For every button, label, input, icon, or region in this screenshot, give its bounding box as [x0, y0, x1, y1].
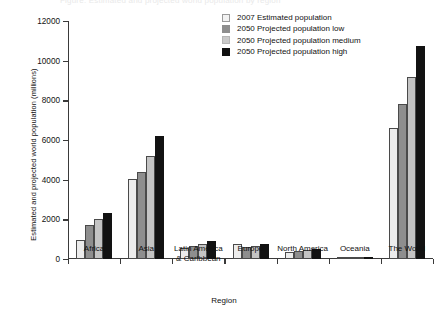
legend-item: 2050 Projected population medium	[222, 36, 361, 45]
bar	[337, 257, 346, 259]
legend-swatch-icon	[222, 48, 230, 56]
y-tick-label: 10000	[37, 56, 60, 65]
y-tick-mark	[63, 100, 68, 101]
y-axis-line	[68, 21, 69, 259]
chart-legend: 2007 Estimated population2050 Projected …	[222, 13, 361, 56]
x-tick-mark	[381, 259, 382, 264]
bar	[346, 257, 355, 259]
bar	[398, 104, 407, 259]
clipped-header-strip: Figure: Estimated and projected world po…	[0, 0, 448, 9]
y-tick-mark	[63, 140, 68, 141]
legend-swatch-icon	[222, 25, 230, 33]
bar-group	[178, 21, 218, 259]
x-tick-mark	[433, 259, 434, 264]
y-tick-label: 4000	[42, 175, 60, 184]
legend-item-label: 2007 Estimated population	[237, 13, 332, 22]
y-tick-label: 2000	[42, 215, 60, 224]
bar-group	[126, 21, 166, 259]
bar-group	[283, 21, 323, 259]
legend-item-label: 2050 Projected population low	[237, 24, 344, 33]
bar-group	[387, 21, 427, 259]
plot-area: 020004000600080001000012000	[68, 21, 433, 259]
bar-group	[231, 21, 271, 259]
x-tick-mark	[329, 259, 330, 264]
clipped-header-text: Figure: Estimated and projected world po…	[60, 0, 281, 5]
y-tick-label: 8000	[42, 96, 60, 105]
x-tick-mark	[277, 259, 278, 264]
y-tick-mark	[63, 61, 68, 62]
bar-group	[335, 21, 375, 259]
bar	[364, 257, 373, 259]
y-axis-title: Estimated and projected world population…	[29, 40, 38, 270]
bar	[407, 77, 416, 259]
legend-item-label: 2050 Projected population high	[237, 47, 347, 56]
y-tick-mark	[63, 21, 68, 22]
legend-item-label: 2050 Projected population medium	[237, 36, 361, 45]
y-tick-label: 12000	[37, 17, 60, 26]
y-tick-mark	[63, 219, 68, 220]
y-tick-label: 0	[55, 255, 60, 264]
bar	[389, 128, 398, 259]
legend-item: 2050 Projected population high	[222, 47, 361, 56]
legend-swatch-icon	[222, 14, 230, 22]
bar-group	[74, 21, 114, 259]
x-tick-mark	[120, 259, 121, 264]
legend-swatch-icon	[222, 36, 230, 44]
population-bar-chart: Figure: Estimated and projected world po…	[0, 0, 448, 321]
x-axis-title: Region	[0, 296, 448, 305]
y-tick-mark	[63, 180, 68, 181]
legend-item: 2007 Estimated population	[222, 13, 361, 22]
bar	[416, 46, 425, 259]
legend-item: 2050 Projected population low	[222, 24, 361, 33]
x-tick-mark	[68, 259, 69, 264]
y-tick-label: 6000	[42, 136, 60, 145]
x-category-label: The World	[367, 244, 447, 254]
bar	[155, 136, 164, 259]
bar	[355, 257, 364, 259]
